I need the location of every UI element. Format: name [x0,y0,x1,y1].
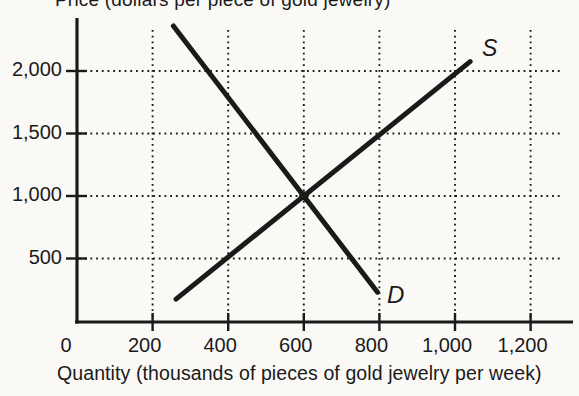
x-tick-label: 1,000 [422,334,472,357]
y-tick-label: 500 [0,246,62,268]
equilibrium-point [299,191,308,200]
supply-curve [176,62,470,300]
x-tick-label: 800 [355,334,388,357]
supply-demand-figure: Price (dollars per piece of gold jewelry… [0,0,579,396]
x-axis-title: Quantity (thousands of pieces of gold je… [57,362,542,385]
x-tick-label: 400 [204,334,237,357]
y-tick-label: 2,000 [0,58,62,80]
y-tick-label: 1,000 [0,183,62,205]
x-tick-label: 200 [128,334,161,357]
x-tick-label: 1,200 [498,334,548,357]
supply-curve-label: S [482,37,497,60]
y-tick-label: 1,500 [0,121,62,143]
x-tick-label: 600 [279,334,312,357]
demand-curve-label: D [387,283,404,307]
x-tick-label: 0 [60,334,71,357]
